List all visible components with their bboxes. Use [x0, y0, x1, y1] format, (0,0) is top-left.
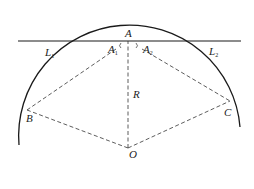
label-O: O [129, 148, 137, 160]
label-L1-sub: 1 [51, 53, 54, 59]
construction-lines [27, 41, 230, 148]
label-L1: L1 [44, 46, 54, 59]
label-A1: A1 [107, 43, 118, 56]
circle-arc [19, 25, 240, 145]
label-L2: L2 [208, 45, 218, 58]
angle-mark-right [136, 43, 138, 48]
label-A2: A2 [142, 43, 153, 56]
label-B: B [26, 112, 33, 124]
label-L1-main: L [44, 46, 51, 58]
geometry-diagram: A A1 A2 L1 L2 R B C O [0, 0, 254, 189]
label-A1-sub: 1 [115, 50, 118, 56]
label-L2-main: L [208, 45, 215, 57]
label-A: A [124, 27, 132, 39]
label-L2-sub: 2 [215, 52, 218, 58]
radius-OB [27, 110, 128, 148]
angle-mark-left [120, 43, 122, 48]
label-A2-sub: 2 [150, 50, 153, 56]
label-C: C [224, 106, 232, 118]
label-R: R [132, 88, 140, 100]
chord-AB [27, 49, 116, 110]
radius-OC [128, 101, 230, 148]
